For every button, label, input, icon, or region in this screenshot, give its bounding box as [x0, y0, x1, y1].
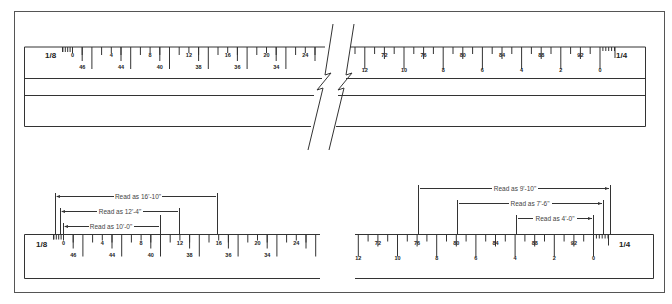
tick-label: 0: [71, 52, 74, 58]
tick-label: 24: [293, 240, 300, 246]
tick-label: 34: [264, 252, 271, 258]
tick-label: 38: [187, 252, 193, 258]
bottom-left-scale: 04644484012381636203424 1/8 Read as 16'-…: [25, 193, 321, 279]
tick-label: 4: [520, 67, 524, 73]
tick-label: 80: [453, 240, 459, 246]
tick-label: 40: [148, 252, 154, 258]
break-line-left: [308, 24, 333, 150]
top-scale-right-body: [336, 47, 646, 127]
svg-text:Read as 12'-4": Read as 12'-4": [99, 208, 142, 215]
reading-12-4: Read as 12'-4": [61, 208, 180, 234]
tick-label: 40: [157, 64, 163, 70]
tick-label: 44: [109, 252, 116, 258]
tick-label: 88: [532, 240, 538, 246]
tick-label: 8: [435, 255, 438, 261]
tick-label: 36: [234, 64, 240, 70]
tick-label: 80: [460, 52, 466, 58]
tick-label: 84: [492, 240, 499, 246]
tick-label: 0: [592, 255, 595, 261]
svg-text:Read as 4'-0": Read as 4'-0": [536, 215, 576, 222]
reading-9-10: Read as 9'-10": [419, 185, 611, 234]
svg-text:Read as 16'-10": Read as 16'-10": [115, 193, 162, 200]
top-scale-left-body: [25, 47, 326, 127]
tick-label: 10: [394, 255, 400, 261]
tick-label: 12: [355, 255, 361, 261]
tick-label: 20: [263, 52, 269, 58]
tick-label: 46: [70, 252, 76, 258]
tick-label: 20: [254, 240, 260, 246]
tick-label: 4: [110, 52, 114, 58]
tick-label: 92: [571, 240, 577, 246]
tick-label: 16: [216, 240, 222, 246]
tick-label: 6: [481, 67, 484, 73]
top-right-ratio: 1/4: [616, 51, 628, 60]
reading-7-6: Read as 7'-6": [458, 200, 604, 234]
tick-label: 2: [553, 255, 556, 261]
tick-label: 2: [559, 67, 562, 73]
reading-4-0: Read as 4'-0": [517, 215, 594, 234]
reading-10-0: Read as 10'-0": [64, 215, 161, 234]
tick-label: 4: [101, 240, 105, 246]
tick-label: 92: [577, 52, 583, 58]
svg-text:Read as 9'-10": Read as 9'-10": [494, 185, 537, 192]
bottom-right-scale: 092288484680876107212 1/4 Read as 9'-10"…: [355, 185, 654, 279]
tick-label: 12: [362, 67, 368, 73]
svg-text:Read as 10'-0": Read as 10'-0": [90, 223, 133, 230]
tick-label: 88: [538, 52, 544, 58]
tick-label: 34: [273, 64, 280, 70]
tick-label: 44: [118, 64, 125, 70]
tick-label: 8: [149, 52, 152, 58]
tick-label: 8: [442, 67, 445, 73]
tick-label: 12: [186, 52, 192, 58]
tick-label: 46: [79, 64, 85, 70]
tick-label: 6: [474, 255, 477, 261]
tick-label: 24: [302, 52, 309, 58]
tick-label: 84: [499, 52, 506, 58]
tick-label: 76: [421, 52, 427, 58]
top-left-ratio: 1/8: [45, 51, 57, 60]
tick-label: 12: [177, 240, 183, 246]
top-scale: 04644484012381636203424 0922884846808761…: [25, 24, 646, 150]
tick-label: 16: [225, 52, 231, 58]
tick-label: 10: [401, 67, 407, 73]
scale-diagram: 04644484012381636203424 0922884846808761…: [0, 0, 672, 304]
tick-label: 72: [375, 240, 381, 246]
tick-label: 76: [414, 240, 420, 246]
bottom-left-ratio: 1/8: [36, 240, 48, 249]
svg-text:Read as 7'-6": Read as 7'-6": [511, 200, 551, 207]
tick-label: 36: [225, 252, 231, 258]
tick-label: 4: [514, 255, 518, 261]
tick-label: 0: [62, 240, 65, 246]
bottom-right-ratio: 1/4: [619, 240, 631, 249]
tick-label: 0: [598, 67, 601, 73]
tick-label: 38: [196, 64, 202, 70]
break-line-right: [329, 24, 354, 150]
tick-label: 8: [140, 240, 143, 246]
tick-label: 72: [381, 52, 387, 58]
